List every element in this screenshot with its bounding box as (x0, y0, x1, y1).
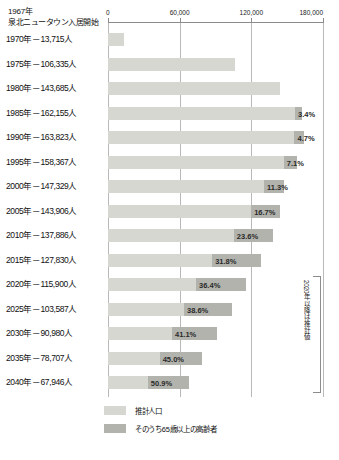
x-tick-label: 0 (106, 9, 110, 16)
legend-swatch-elderly (104, 424, 126, 433)
category-label: 1985年－162,155人 (6, 106, 77, 118)
category-label: 1990年－163,823人 (6, 130, 77, 142)
header-line-1: 1967年 (8, 6, 98, 17)
elderly-percent-label: 23.6% (237, 232, 258, 241)
elderly-percent-label: 41.1% (175, 330, 196, 339)
legend-label-elderly: そのうち65歳以上の高齢者 (135, 423, 216, 434)
elderly-percent-label: 4.7% (297, 134, 314, 143)
bar-total (108, 82, 280, 95)
x-tick-label: 60,000 (170, 9, 190, 16)
elderly-percent-label: 38.6% (187, 306, 208, 315)
gridline (323, 22, 324, 397)
elderly-percent-label: 7.1% (287, 159, 304, 168)
elderly-percent-label: 31.8% (215, 257, 236, 266)
plot-area: 060,000120,000180,0003.4%4.7%7.1%11.3%16… (108, 22, 323, 397)
category-label: 2035年－78,707人 (6, 351, 73, 363)
elderly-percent-label: 3.4% (298, 110, 315, 119)
category-label: 2040年－67,946人 (6, 375, 73, 387)
elderly-percent-label: 50.9% (151, 379, 172, 388)
bar-total (108, 33, 124, 46)
category-label: 2005年－143,906人 (6, 204, 77, 216)
header-line-2: 泉北ニュータウン入居開始 (8, 17, 98, 28)
bar-total (108, 156, 297, 169)
chart-page: 1967年 泉北ニュータウン入居開始 060,000120,000180,000… (0, 0, 339, 460)
bar-total (108, 58, 235, 71)
x-tick (180, 18, 181, 23)
elderly-percent-label: 36.4% (199, 281, 220, 290)
annotation-bracket (313, 276, 321, 393)
category-label: 1970年－13,715人 (6, 32, 73, 44)
bar-total (108, 180, 284, 193)
x-axis (108, 22, 323, 23)
category-label: 2025年－103,587人 (6, 302, 77, 314)
category-label: 2010年－137,886人 (6, 228, 77, 240)
category-label: 1995年－158,367人 (6, 155, 77, 167)
x-tick (108, 18, 109, 23)
x-tick (323, 18, 324, 23)
annotation-label: 2020年以降は推計値 (301, 280, 311, 340)
legend-swatch-total (104, 406, 126, 415)
legend-item-total: 推計人口 (104, 405, 216, 416)
chart-legend: 推計人口 そのうち65歳以上の高齢者 (104, 405, 216, 441)
x-tick-label: 120,000 (240, 9, 264, 16)
chart-header: 1967年 泉北ニュータウン入居開始 (8, 6, 98, 28)
category-label: 1980年－143,685人 (6, 81, 77, 93)
x-tick-label: 180,000 (300, 9, 324, 16)
elderly-percent-label: 16.7% (254, 208, 275, 217)
legend-label-total: 推計人口 (135, 405, 162, 416)
x-tick (251, 18, 252, 23)
category-label: 2020年－115,900人 (6, 277, 76, 289)
elderly-percent-label: 11.3% (267, 183, 288, 192)
bar-total (108, 107, 302, 120)
elderly-percent-label: 45.0% (163, 355, 184, 364)
category-label: 2030年－90,980人 (6, 326, 73, 338)
category-label: 1975年－106,335人 (6, 57, 77, 69)
category-label: 2000年－147,329人 (6, 179, 77, 191)
bar-total (108, 131, 304, 144)
category-label: 2015年－127,830人 (6, 253, 77, 265)
legend-item-elderly: そのうち65歳以上の高齢者 (104, 423, 216, 434)
